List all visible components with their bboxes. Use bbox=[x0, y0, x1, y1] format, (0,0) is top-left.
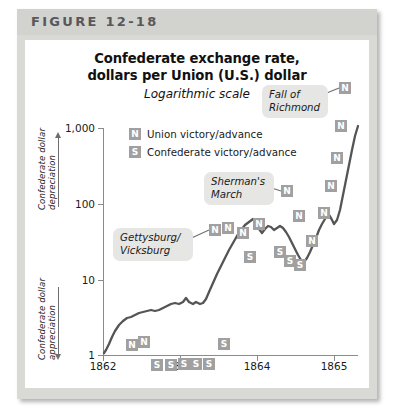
marker-n: N bbox=[253, 218, 265, 230]
figure-root: FIGURE 12-18 Confederate exchange rate, … bbox=[0, 0, 395, 418]
marker-s: S bbox=[218, 338, 230, 350]
marker-s: S bbox=[165, 359, 177, 371]
marker-n: N bbox=[138, 336, 150, 348]
marker-n: N bbox=[281, 185, 293, 197]
marker-n: N bbox=[331, 152, 343, 164]
marker-n: N bbox=[293, 210, 305, 222]
chart-panel: Confederate exchange rate, dollars per U… bbox=[25, 40, 369, 388]
marker-n: N bbox=[126, 339, 138, 351]
marker-s: S bbox=[178, 358, 190, 370]
marker-n: N bbox=[335, 120, 347, 132]
marker-n: N bbox=[222, 222, 234, 234]
marker-s: S bbox=[294, 259, 306, 271]
marker-s: S bbox=[190, 358, 202, 370]
annotation-richmond: Fall of Richmond bbox=[262, 85, 328, 118]
chart-area: 1,000 100 10 1 1862 1863 1864 1865 Confe… bbox=[25, 40, 369, 388]
marker-n: N bbox=[306, 235, 318, 247]
annotation-gettysburg: Gettysburg/ Vicksburg bbox=[113, 228, 193, 261]
annotation-sherman: Sherman's March bbox=[204, 172, 274, 205]
marker-n: N bbox=[318, 207, 330, 219]
marker-n: N bbox=[339, 82, 351, 94]
marker-s: S bbox=[151, 359, 163, 371]
marker-n: N bbox=[237, 227, 249, 239]
figure-number-label: FIGURE 12-18 bbox=[31, 14, 159, 29]
marker-n: N bbox=[209, 224, 221, 236]
marker-n: N bbox=[325, 180, 337, 192]
marker-s: S bbox=[244, 251, 256, 263]
marker-s: S bbox=[203, 358, 215, 370]
